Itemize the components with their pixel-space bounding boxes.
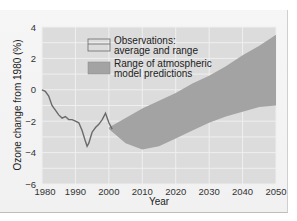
x-tick-label: 1990 xyxy=(65,186,86,197)
y-axis-ticks: 420−2−4−6 xyxy=(25,22,36,190)
x-tick-label: 2050 xyxy=(265,186,286,197)
legend-band-swatch xyxy=(88,62,110,74)
y-tick-label: −4 xyxy=(25,147,36,158)
legend-models-line2: model predictions xyxy=(114,68,192,79)
y-tick-label: 4 xyxy=(31,22,36,33)
y-tick-label: 0 xyxy=(31,84,36,95)
x-tick-label: 2030 xyxy=(199,186,220,197)
y-axis-title: Ozone change from 1980 (%) xyxy=(12,39,23,170)
legend-observations-line2: average and range xyxy=(114,45,198,56)
ozone-chart: 420−2−4−6 198019902000201020202030204020… xyxy=(0,0,297,221)
y-tick-label: 2 xyxy=(31,53,36,64)
x-tick-label: 2040 xyxy=(232,186,253,197)
x-axis-title: Year xyxy=(149,196,170,207)
x-tick-label: 1980 xyxy=(34,186,55,197)
y-tick-label: −2 xyxy=(25,116,36,127)
x-tick-label: 2000 xyxy=(98,186,119,197)
